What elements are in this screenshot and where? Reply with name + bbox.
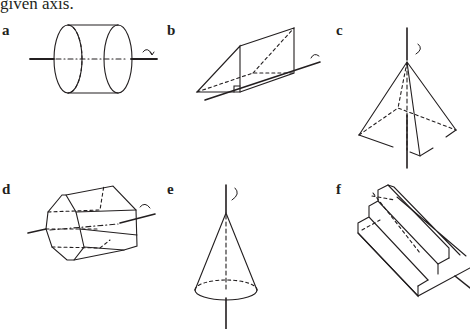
cone-figure — [195, 185, 257, 329]
cylinder-figure — [30, 25, 157, 93]
octagonal-prism-figure — [28, 185, 155, 260]
square-pyramid-figure — [359, 28, 456, 168]
triangular-prism-figure — [197, 28, 320, 100]
stepped-prism-figure — [358, 185, 470, 296]
